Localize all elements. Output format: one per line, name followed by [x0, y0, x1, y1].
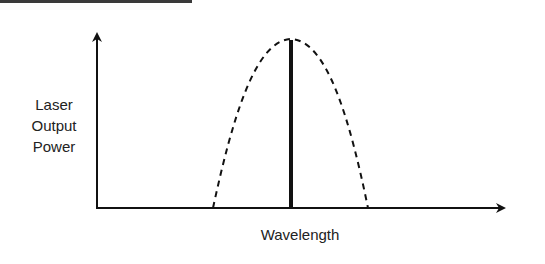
y-axis-label: Laser Output Power — [14, 94, 94, 157]
x-axis-label: Wavelength — [250, 226, 350, 243]
y-label-line-3: Power — [14, 136, 94, 157]
y-label-line-2: Output — [14, 115, 94, 136]
y-label-line-1: Laser — [14, 94, 94, 115]
